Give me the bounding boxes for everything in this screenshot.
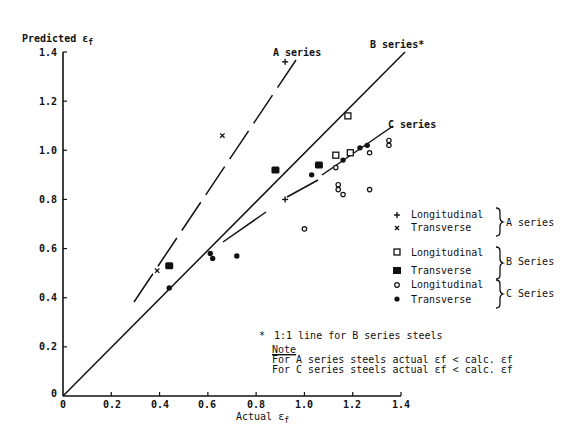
filled-circle-marker-icon xyxy=(208,251,213,256)
footnote-text: 1:1 line for B series steels xyxy=(274,330,443,341)
filled-circle-marker-icon xyxy=(309,172,314,177)
b-series-line-label: B series* xyxy=(370,39,424,50)
open-circle-marker-icon xyxy=(334,165,338,169)
data-markers xyxy=(155,59,391,291)
cross-marker-icon xyxy=(395,226,399,230)
open-square-marker-icon xyxy=(347,150,353,156)
c-series-line-segment xyxy=(287,180,318,197)
open-circle-marker-icon xyxy=(387,143,391,147)
svg-text:Transverse: Transverse xyxy=(411,265,471,276)
a-series-line xyxy=(134,60,296,302)
a-series-line-label: A series xyxy=(273,47,321,58)
x-tick-label: 0.8 xyxy=(247,399,265,410)
c-series-line-segment xyxy=(322,126,393,175)
scatter-chart: 0.2 0.4 0.6 0.8 1.0 1.2 1.4 0 0 0.2 0.4 … xyxy=(0,0,583,437)
notes: * 1:1 line for B series steels Note For … xyxy=(259,330,513,375)
brace-icon xyxy=(496,208,503,236)
reference-lines xyxy=(63,52,405,396)
legend-a-longitudinal: Longitudinal xyxy=(394,209,483,220)
x-tick-label: 1.0 xyxy=(295,399,313,410)
open-circle-marker-icon xyxy=(367,187,371,191)
legend: Longitudinal Transverse A series Longitu… xyxy=(393,208,554,308)
filled-square-marker-icon xyxy=(271,166,279,173)
legend-b-transverse: Transverse xyxy=(393,265,471,276)
y-origin-label: 0 xyxy=(51,388,57,399)
legend-a-transverse: Transverse xyxy=(395,222,471,233)
c-series-line-label: C series xyxy=(388,119,436,130)
note-line-2: For C series steels actual εf < calc. εf xyxy=(272,364,513,375)
filled-circle-marker-icon xyxy=(210,256,215,261)
filled-circle-marker-icon xyxy=(234,253,239,258)
legend-group-c: C Series xyxy=(506,288,554,299)
y-tick-label: 0.6 xyxy=(39,243,57,254)
svg-text:Longitudinal: Longitudinal xyxy=(411,279,483,290)
legend-c-longitudinal: Longitudinal xyxy=(395,279,484,290)
open-circle-marker-icon xyxy=(395,283,400,288)
filled-circle-marker-icon xyxy=(340,157,345,162)
cross-marker-icon xyxy=(220,133,224,137)
brace-icon xyxy=(496,280,503,308)
x-tick-labels: 0 0.2 0.4 0.6 0.8 1.0 1.2 1.4 xyxy=(60,399,410,410)
open-circle-marker-icon xyxy=(367,151,371,155)
x-tick-label: 0 xyxy=(60,399,66,410)
filled-square-marker-icon xyxy=(315,162,323,169)
y-tick-label: 1.0 xyxy=(39,145,57,156)
filled-circle-marker-icon xyxy=(357,145,362,150)
y-tick-label: 0.2 xyxy=(39,341,57,352)
y-tick-labels: 0.2 0.4 0.6 0.8 1.0 1.2 1.4 0 xyxy=(39,47,57,399)
open-square-marker-icon xyxy=(394,249,400,255)
b-series-1to1-line xyxy=(63,52,405,396)
y-tick-label: 1.4 xyxy=(39,47,57,58)
x-tick-label: 1.4 xyxy=(392,399,410,410)
c-series-line-segment xyxy=(223,212,266,242)
x-tick-label: 0.6 xyxy=(198,399,216,410)
open-square-marker-icon xyxy=(345,113,351,119)
x-axis-title: Actual εf xyxy=(236,411,289,425)
svg-text:Longitudinal: Longitudinal xyxy=(411,247,483,258)
svg-text:Transverse: Transverse xyxy=(411,294,471,305)
filled-square-marker-icon xyxy=(393,267,401,274)
open-square-marker-icon xyxy=(333,152,339,158)
open-circle-marker-icon xyxy=(336,182,340,186)
legend-b-longitudinal: Longitudinal xyxy=(394,247,483,258)
plus-marker-icon xyxy=(394,212,400,218)
x-tick-label: 0.2 xyxy=(103,399,121,410)
legend-group-a: A series xyxy=(506,217,554,228)
open-circle-marker-icon xyxy=(336,187,340,191)
y-tick-label: 0.8 xyxy=(39,194,57,205)
open-circle-marker-icon xyxy=(341,192,345,196)
footnote-mark: * xyxy=(259,330,265,341)
legend-group-b: B Series xyxy=(506,256,554,267)
svg-text:Longitudinal: Longitudinal xyxy=(411,209,483,220)
y-tick-label: 0.4 xyxy=(39,292,57,303)
y-tick-label: 1.2 xyxy=(39,96,57,107)
plus-marker-icon xyxy=(282,59,288,65)
x-tick-label: 0.4 xyxy=(151,399,169,410)
open-circle-marker-icon xyxy=(302,227,306,231)
svg-text:Transverse: Transverse xyxy=(411,222,471,233)
brace-icon xyxy=(496,247,503,279)
cross-marker-icon xyxy=(155,268,159,272)
filled-circle-marker-icon xyxy=(167,285,172,290)
y-axis-title: Predicted εf xyxy=(22,33,93,47)
filled-square-marker-icon xyxy=(165,262,173,269)
open-circle-marker-icon xyxy=(387,138,391,142)
legend-c-transverse: Transverse xyxy=(394,294,471,305)
x-tick-label: 1.2 xyxy=(343,399,361,410)
filled-circle-marker-icon xyxy=(394,296,399,301)
filled-circle-marker-icon xyxy=(365,143,370,148)
